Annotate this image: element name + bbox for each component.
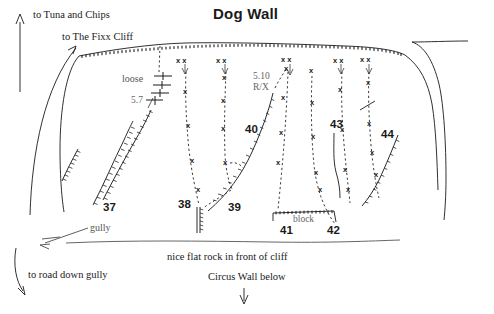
route-number-40: 40 (245, 123, 258, 135)
loose-label: loose (122, 73, 144, 84)
direction-label-road: to road down gully (28, 269, 108, 280)
direction-label-fixx: to The Fixx Cliff (62, 31, 134, 42)
anchor-41: x x (281, 55, 292, 64)
page-title: Dog Wall (213, 5, 278, 22)
route-number-37: 37 (103, 201, 116, 213)
anchor-44: x x (360, 55, 371, 64)
direction-label-tuna: to Tuna and Chips (33, 9, 110, 20)
grade-label-510: 5.10 (253, 71, 270, 81)
grade-label-57: 5.7 (131, 95, 143, 105)
route-number-43: 43 (330, 118, 343, 130)
route-number-42: 42 (327, 224, 340, 236)
route-number-41: 41 (280, 224, 293, 236)
anchor-38: x x (176, 56, 187, 65)
note-circus-wall: Circus Wall below (208, 271, 286, 282)
route-number-39: 39 (228, 201, 241, 213)
block-label: block (293, 214, 314, 224)
note-flat-rock: nice flat rock in front of cliff (167, 251, 288, 262)
route-number-44: 44 (381, 128, 394, 140)
anchor-43: x x (333, 56, 344, 65)
route-number-38: 38 (178, 198, 191, 210)
grade-label-rx: R/X (253, 82, 269, 92)
gully-label: gully (90, 222, 111, 233)
dog-wall-topo-diagram: Dog Wall to Tuna and Chips to The Fixx C… (0, 0, 494, 314)
anchor-39: x x (216, 56, 227, 65)
